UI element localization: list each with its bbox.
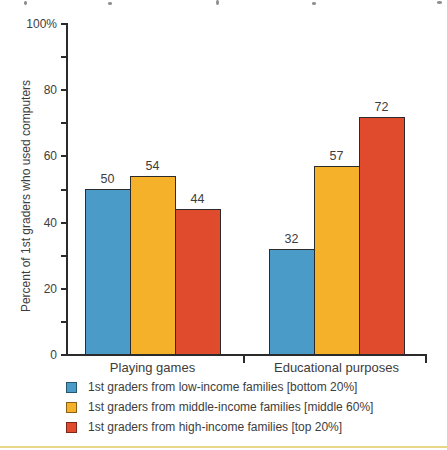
cropped-text-fragment bbox=[24, 1, 27, 5]
y-axis-tick-label: 40 bbox=[0, 216, 57, 230]
bar bbox=[269, 249, 315, 355]
y-axis-major-tick bbox=[61, 155, 68, 157]
bar bbox=[359, 117, 405, 355]
y-axis-tick-label: 60 bbox=[0, 149, 57, 163]
cropped-text-fragment bbox=[216, 0, 219, 5]
legend-row: 1st graders from middle-income families … bbox=[66, 400, 373, 414]
y-axis-major-tick bbox=[61, 222, 68, 224]
y-axis-major-tick bbox=[61, 23, 68, 25]
y-axis-minor-tick bbox=[61, 56, 68, 58]
legend-label: 1st graders from high-income families [t… bbox=[88, 420, 342, 434]
y-axis-label: Percent of 1st graders who used computer… bbox=[19, 80, 33, 312]
bar-value-label: 54 bbox=[120, 159, 185, 173]
bar bbox=[175, 209, 221, 355]
y-axis-tick-label: 0 bbox=[0, 348, 57, 362]
y-axis-tick-label: 80 bbox=[0, 83, 57, 97]
y-axis-tick-label: 20 bbox=[0, 282, 57, 296]
y-axis-minor-tick bbox=[61, 321, 68, 323]
legend-label: 1st graders from low-income families [bo… bbox=[88, 380, 357, 394]
y-axis-minor-tick bbox=[61, 255, 68, 257]
legend-swatch bbox=[66, 382, 77, 393]
legend-label: 1st graders from middle-income families … bbox=[88, 400, 373, 414]
bar-value-label: 72 bbox=[349, 100, 414, 114]
y-axis-minor-tick bbox=[61, 122, 68, 124]
y-axis-major-tick bbox=[61, 89, 68, 91]
x-axis-tick bbox=[243, 354, 245, 363]
cropped-text-fragment bbox=[108, 2, 112, 5]
bar-value-label: 44 bbox=[165, 192, 230, 206]
y-axis-minor-tick bbox=[61, 189, 68, 191]
y-axis-tick-label: 100% bbox=[0, 17, 57, 31]
legend-swatch bbox=[66, 402, 77, 413]
x-category-label: Playing games bbox=[63, 361, 243, 375]
legend-row: 1st graders from high-income families [t… bbox=[66, 420, 342, 434]
bar bbox=[85, 189, 131, 355]
page-bottom-rule bbox=[0, 446, 447, 448]
cropped-text-fragment bbox=[312, 2, 316, 5]
legend-swatch bbox=[66, 422, 77, 433]
legend-row: 1st graders from low-income families [bo… bbox=[66, 380, 357, 394]
y-axis-major-tick bbox=[61, 288, 68, 290]
bar bbox=[314, 166, 360, 355]
x-category-label: Educational purposes bbox=[247, 361, 427, 375]
y-axis-major-tick bbox=[61, 354, 68, 356]
bar-chart-figure: Percent of 1st graders who used computer… bbox=[0, 0, 447, 450]
cropped-text-fragment bbox=[437, 1, 442, 4]
